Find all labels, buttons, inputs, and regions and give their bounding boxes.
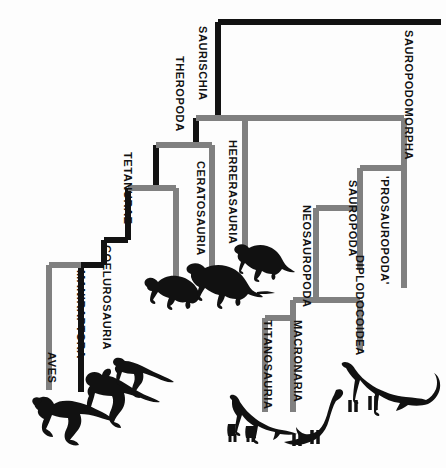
clade-label-tetanurae: TETANURAE [122, 152, 133, 224]
clade-label-titanosauria: TITANOSAURIA [262, 320, 273, 410]
silhouette-bird-like-theropod-left [32, 397, 114, 446]
silhouette-herrerasaur [234, 244, 295, 282]
silhouette-ceratosaur [145, 276, 200, 310]
clade-label-saurischia: SAURISCHIA [197, 26, 208, 100]
clade-label-sauropoda: SAUROPODA [347, 180, 358, 257]
silhouette-diplodocid [342, 362, 440, 416]
clade-label-aves: AVES [46, 352, 57, 384]
clade-label-macronaria: MACRONARIA [292, 320, 303, 402]
clade-label-herrerasauria: HERRERASAURIA [227, 140, 238, 244]
clade-label-diplodocoidea: DIPLODOCOIDEA [354, 255, 365, 356]
clade-label-prosauropoda: 'PROSAUROPODA' [379, 176, 390, 285]
cladogram-figure: SAURISCHIATHEROPODATETANURAECOELUROSAURI… [0, 0, 446, 468]
silhouette-oviraptorosaur [86, 369, 161, 428]
clade-label-sauropodomorpha: SAUROPODOMORPHA [403, 30, 414, 160]
clade-label-ceratosauria: CERATOSAURIA [195, 161, 206, 256]
clade-label-neosauropoda: NEOSAUROPODA [301, 205, 312, 308]
clade-label-theropoda: THEROPODA [174, 56, 185, 132]
clade-label-maniraptora: MANIRAPTORA [75, 270, 86, 359]
clade-label-coelurosauria: COELUROSAURIA [101, 245, 112, 350]
